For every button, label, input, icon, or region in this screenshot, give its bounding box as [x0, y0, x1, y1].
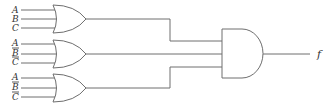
output-label: f	[316, 48, 323, 61]
input-label-or3-a: A	[11, 72, 19, 82]
or-gate-1-symbol	[53, 5, 86, 33]
input-label-or3-c: C	[12, 92, 19, 102]
input-label-or1-c: C	[12, 23, 19, 33]
logic-circuit-diagram: A B C A B C A B C f	[0, 0, 333, 109]
and-gate-symbol	[222, 29, 263, 78]
wire-or3-to-and	[86, 67, 222, 88]
input-label-or2-a: A	[11, 38, 19, 48]
or-gate-2-symbol	[53, 40, 86, 68]
wire-or1-to-and	[86, 19, 222, 41]
or-gate-1: A B C	[11, 5, 86, 33]
input-label-or2-c: C	[12, 57, 19, 67]
input-label-or3-b: B	[11, 82, 19, 92]
or-gate-3: A B C	[11, 72, 86, 102]
or-gate-3-symbol	[53, 74, 86, 102]
or-gate-2: A B C	[11, 38, 86, 68]
